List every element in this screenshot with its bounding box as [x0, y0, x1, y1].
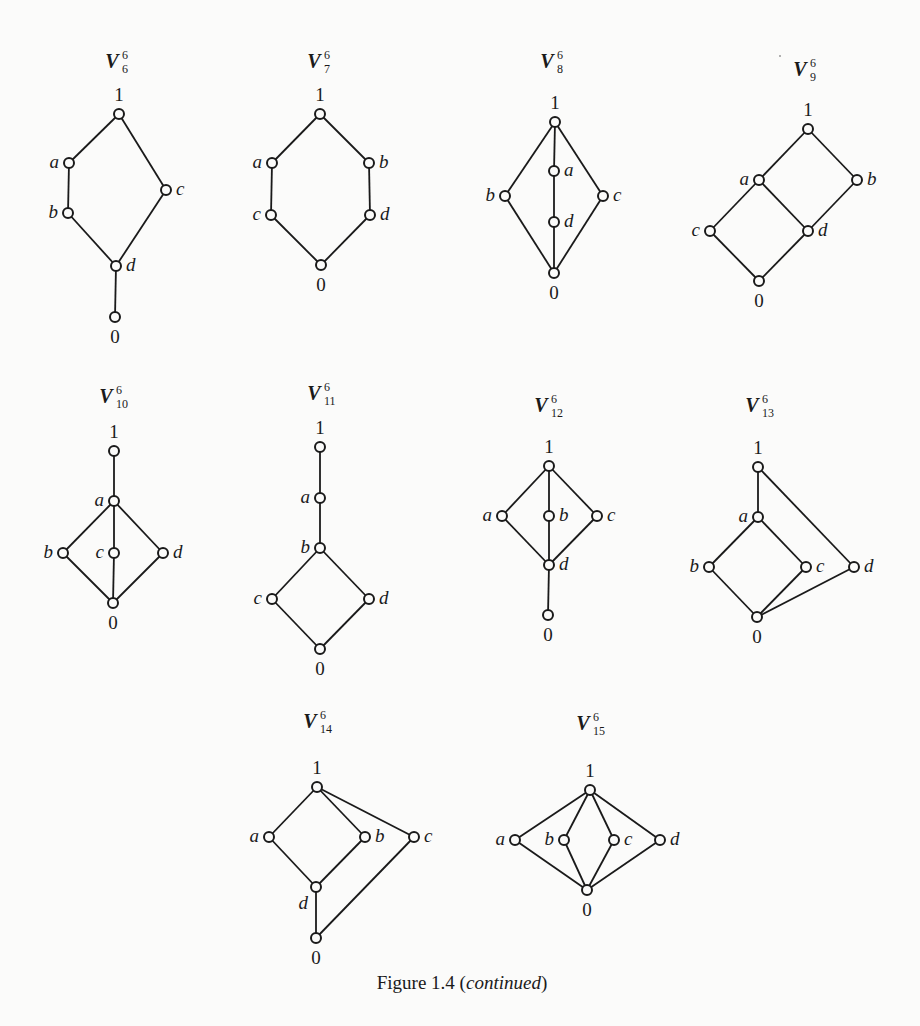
node-c	[161, 185, 171, 195]
lattice-V6-10: V61001abcd	[44, 383, 184, 633]
speck-mark	[779, 55, 781, 57]
node-label-c: c	[613, 184, 622, 205]
edge-c-0	[554, 196, 603, 273]
node-b	[852, 175, 862, 185]
node-label-c: c	[96, 541, 105, 562]
node-label-b: b	[545, 828, 555, 849]
edge-b-d	[369, 163, 370, 215]
node-0	[315, 644, 325, 654]
edge-1-a	[269, 787, 317, 837]
title-superscript: 6	[593, 710, 599, 724]
node-label-c: c	[253, 203, 262, 224]
node-label-a: a	[301, 486, 311, 507]
edge-c-0	[316, 837, 414, 938]
edge-1-c	[119, 114, 166, 190]
edge-b-0	[709, 567, 757, 617]
node-b	[315, 543, 325, 553]
node-d	[549, 217, 559, 227]
title-superscript: 6	[557, 48, 563, 62]
lattice-title: V	[534, 394, 549, 416]
title-subscript: 14	[320, 722, 332, 736]
title-subscript: 8	[557, 62, 563, 76]
title-subscript: 11	[324, 394, 336, 408]
node-c	[267, 594, 277, 604]
edge-1-c	[317, 787, 414, 837]
node-d	[365, 210, 375, 220]
edge-1-b	[320, 114, 369, 163]
edge-b-d	[316, 837, 365, 887]
node-label-d: d	[299, 892, 309, 913]
lattice-title: V	[99, 385, 114, 407]
node-label-0: 0	[752, 626, 762, 647]
node-label-1: 1	[550, 92, 560, 113]
node-1	[544, 461, 554, 471]
node-1	[585, 785, 595, 795]
node-label-0: 0	[315, 658, 325, 679]
edge-c-0	[710, 231, 759, 281]
title-subscript: 13	[762, 406, 774, 420]
node-label-0: 0	[549, 282, 559, 303]
node-0	[110, 312, 120, 322]
lattice-V6-14: V61401abcd	[250, 708, 434, 968]
edge-d-0	[757, 567, 854, 617]
edge-b-0	[505, 196, 554, 273]
node-1	[803, 124, 813, 134]
edge-a-c	[710, 180, 759, 231]
edge-1-b	[564, 790, 590, 840]
node-label-c: c	[624, 828, 633, 849]
node-a	[549, 166, 559, 176]
edge-a-d	[114, 501, 163, 553]
node-d	[849, 562, 859, 572]
node-0	[752, 612, 762, 622]
node-c	[609, 835, 619, 845]
node-b	[544, 511, 554, 521]
node-a	[264, 832, 274, 842]
node-c	[109, 548, 119, 558]
edge-a-d	[269, 837, 316, 887]
title-subscript: 10	[116, 397, 128, 411]
node-label-1: 1	[315, 417, 325, 438]
edge-1-a	[69, 114, 119, 163]
edge-c-0	[587, 840, 614, 890]
edge-a-c	[758, 517, 806, 567]
node-label-c: c	[176, 178, 185, 199]
node-0	[311, 933, 321, 943]
node-0	[582, 885, 592, 895]
node-d	[364, 594, 374, 604]
node-label-d: d	[173, 541, 183, 562]
node-label-c: c	[816, 555, 825, 576]
node-label-a: a	[740, 168, 750, 189]
edge-c-0	[272, 599, 320, 649]
node-c	[801, 562, 811, 572]
lattice-V6-9: V6901abcd	[692, 56, 877, 311]
lattice-title: V	[540, 50, 555, 72]
node-label-b: b	[486, 184, 496, 205]
node-label-1: 1	[544, 436, 554, 457]
node-label-a: a	[253, 151, 263, 172]
edge-c-0	[113, 553, 114, 603]
node-b	[63, 208, 73, 218]
node-label-b: b	[867, 168, 877, 189]
title-subscript: 9	[810, 70, 816, 84]
caption-suffix: )	[541, 972, 547, 994]
node-d	[803, 226, 813, 236]
edge-c-d	[116, 190, 166, 266]
node-label-b: b	[375, 825, 385, 846]
node-label-a: a	[564, 159, 574, 180]
node-b	[360, 832, 370, 842]
node-a	[315, 493, 325, 503]
node-label-1: 1	[312, 757, 322, 778]
edge-d-0	[548, 565, 549, 615]
node-b	[58, 548, 68, 558]
edge-1-b	[317, 787, 365, 837]
edge-1-b	[505, 122, 555, 196]
node-c	[266, 210, 276, 220]
node-1	[315, 109, 325, 119]
node-d	[158, 548, 168, 558]
node-0	[108, 598, 118, 608]
edge-d-0	[321, 215, 370, 265]
edge-b-d	[320, 548, 369, 599]
node-label-d: d	[818, 219, 828, 240]
node-b	[364, 158, 374, 168]
figure-caption: Figure 1.4 (continued)	[377, 972, 547, 994]
